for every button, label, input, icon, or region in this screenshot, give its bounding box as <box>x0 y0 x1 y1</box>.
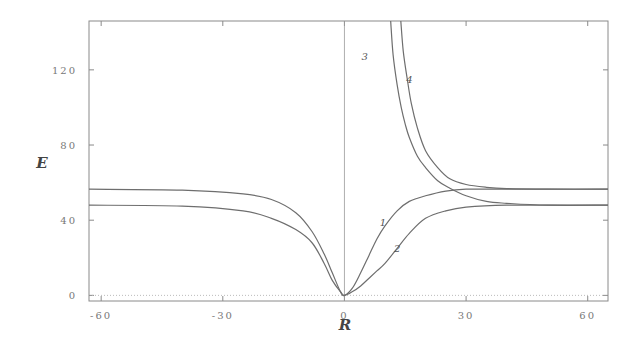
curve-4 <box>401 21 608 189</box>
x-tick-label: -30 <box>212 310 234 321</box>
curves <box>89 21 608 296</box>
curve-2 <box>89 205 608 295</box>
x-tick-label: 30 <box>458 310 475 321</box>
y-tick-label: 80 <box>60 140 77 151</box>
y-tick-label: 120 <box>52 65 77 76</box>
curve-label-4: 4 <box>405 74 412 85</box>
curve-label-2: 2 <box>393 243 400 254</box>
y-axis-title: E <box>35 154 48 172</box>
plot-frame <box>89 21 608 301</box>
x-tick-label: 60 <box>579 310 596 321</box>
x-axis-title: R <box>338 316 351 334</box>
y-tick-label: 40 <box>60 215 77 226</box>
curve-label-3: 3 <box>362 51 368 62</box>
x-tick-label: -60 <box>90 310 112 321</box>
curve-label-1: 1 <box>380 217 386 228</box>
y-tick-label: 0 <box>69 290 77 301</box>
energy-curve-chart: -60-300306004080120 1234 E R <box>0 0 633 355</box>
curve-3 <box>391 21 608 205</box>
